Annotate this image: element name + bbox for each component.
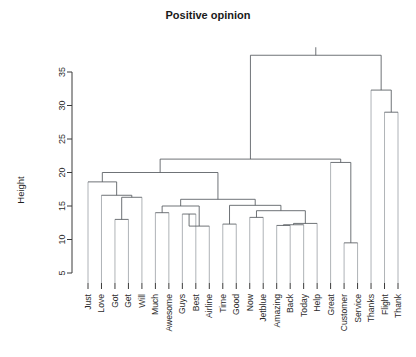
leaf-label: Jetblue	[258, 294, 268, 322]
svg-text:15: 15	[57, 201, 67, 211]
leaf-label: Love	[96, 294, 106, 313]
svg-text:35: 35	[57, 67, 67, 77]
leaf-label: Much	[150, 294, 160, 315]
leaf-label: Airline	[204, 294, 214, 318]
leaf-label: Just	[83, 293, 93, 309]
leaf-label: Now	[245, 293, 255, 311]
leaf-label: Customer	[339, 294, 349, 331]
svg-text:5: 5	[57, 270, 67, 275]
leaf-label: Got	[110, 293, 120, 307]
leaf-label: Will	[137, 294, 147, 308]
leaf-label: Guys	[177, 294, 187, 314]
leaf-label: Service	[353, 294, 363, 323]
leaf-label: Amazing	[272, 294, 282, 328]
leaf-label: Thanks	[366, 294, 376, 322]
svg-text:30: 30	[57, 100, 67, 110]
leaf-label: Today	[299, 293, 309, 317]
leaf-label: Back	[285, 293, 295, 313]
leaf-label: Thank	[393, 293, 403, 318]
dendrogram-plot: Positive opinion Height 5101520253035 Ju…	[0, 0, 416, 357]
svg-text:25: 25	[57, 134, 67, 144]
leaf-label: Good	[231, 294, 241, 315]
leaf-label: Help	[312, 294, 322, 312]
leaf-label: Awesome	[164, 294, 174, 332]
leaf-label: Great	[326, 293, 336, 315]
leaf-label: Get	[123, 293, 133, 307]
y-axis-label: Height	[15, 176, 26, 204]
leaf-label: Flight	[380, 293, 390, 315]
leaf-label: Best	[191, 293, 201, 311]
svg-text:10: 10	[57, 234, 67, 244]
leaf-label: Time	[218, 294, 228, 313]
svg-text:20: 20	[57, 167, 67, 177]
chart-title: Positive opinion	[166, 9, 251, 21]
